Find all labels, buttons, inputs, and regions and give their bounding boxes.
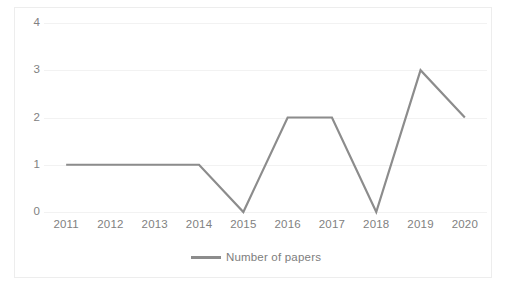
gridline-y-0 <box>44 212 487 213</box>
y-tick-label-4: 4 <box>14 17 40 29</box>
y-tick-label-0: 0 <box>14 206 40 218</box>
y-tick-label-3: 3 <box>14 64 40 76</box>
x-tick-label-2011: 2011 <box>44 219 88 231</box>
legend-label-number-of-papers: Number of papers <box>226 252 321 264</box>
x-tick-label-2020: 2020 <box>443 219 487 231</box>
gridline-y-1 <box>44 165 487 166</box>
y-tick-label-2: 2 <box>14 112 40 124</box>
x-tick-label-2013: 2013 <box>133 219 177 231</box>
x-tick-label-2018: 2018 <box>354 219 398 231</box>
plot-area <box>44 23 487 212</box>
x-tick-label-2017: 2017 <box>310 219 354 231</box>
x-tick-label-2012: 2012 <box>88 219 132 231</box>
line-chart: 01234 2011201220132014201520162017201820… <box>0 0 512 294</box>
x-axis: 2011201220132014201520162017201820192020 <box>44 219 487 237</box>
gridline-y-4 <box>44 23 487 24</box>
x-tick-label-2015: 2015 <box>221 219 265 231</box>
legend-swatch-number-of-papers <box>191 256 221 259</box>
x-tick-label-2019: 2019 <box>399 219 443 231</box>
gridline-y-3 <box>44 70 487 71</box>
gridline-y-2 <box>44 118 487 119</box>
x-tick-label-2016: 2016 <box>266 219 310 231</box>
y-axis: 01234 <box>10 0 40 294</box>
x-tick-label-2014: 2014 <box>177 219 221 231</box>
chart-legend: Number of papers <box>0 252 512 264</box>
y-tick-label-1: 1 <box>14 159 40 171</box>
